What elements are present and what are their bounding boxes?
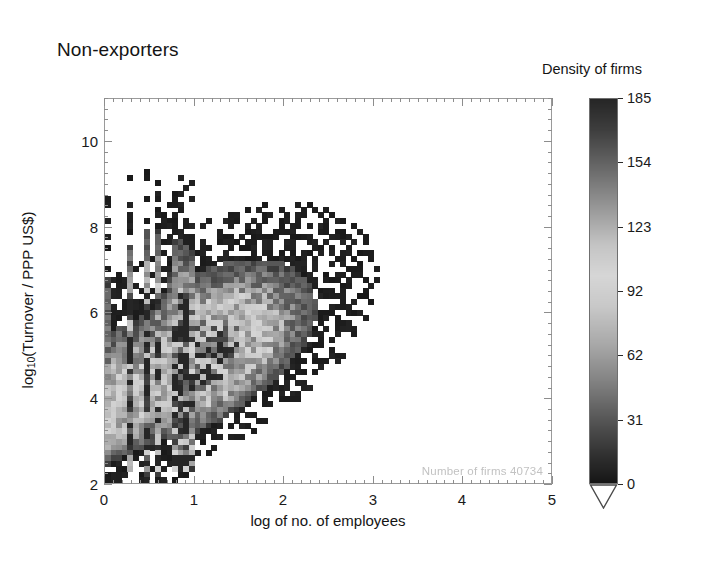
y-tick-right [548,377,552,378]
x-tick-top [158,98,159,102]
y-tick-right [544,227,552,228]
x-tick-top [229,98,230,102]
x-tick-top [301,98,302,102]
colorbar-tick-label: 31 [627,412,643,428]
x-tick [534,480,535,484]
x-tick [489,480,490,484]
x-tick-top [328,98,329,102]
x-tick-top [149,98,150,102]
y-tick [104,441,108,442]
x-tick-top [444,98,445,102]
x-tick [122,480,123,484]
colorbar-tick-label: 185 [627,90,651,106]
x-tick-top [507,98,508,102]
y-tick-right [548,259,552,260]
x-tick [480,480,481,484]
x-tick-top [552,98,553,106]
y-tick [104,463,108,464]
y-tick-right [548,388,552,389]
y-tick [104,184,108,185]
x-tick [274,480,275,484]
x-tick [462,476,463,484]
y-tick-right [548,270,552,271]
y-tick-right [548,323,552,324]
y-tick-right [548,195,552,196]
x-tick [400,480,401,484]
y-tick-right [548,302,552,303]
x-tick [265,480,266,484]
x-tick-label: 5 [548,491,556,508]
y-tick-right [548,248,552,249]
y-tick-right [548,430,552,431]
y-tick [104,366,108,367]
x-tick [301,480,302,484]
y-tick-right [548,473,552,474]
x-tick-top [364,98,365,102]
x-tick [525,480,526,484]
y-axis-label-suffix: (Turnover / PPP US$) [19,212,36,357]
x-tick [382,480,383,484]
y-tick [104,98,108,99]
x-tick-top [140,98,141,102]
y-tick [104,345,108,346]
x-tick-top [534,98,535,102]
y-tick-right [548,366,552,367]
x-axis-label: log of no. of employees [250,512,405,529]
y-tick-right [544,398,552,399]
y-axis-label-prefix: log [19,368,36,388]
x-tick-top [319,98,320,102]
colorbar-tick [618,291,623,292]
y-tick-right [544,312,552,313]
x-tick-top [256,98,257,102]
colorbar-tick [618,420,623,421]
x-tick [158,480,159,484]
x-tick [238,480,239,484]
x-tick-top [310,98,311,102]
x-tick [337,480,338,484]
x-tick [167,480,168,484]
x-tick-label: 0 [100,491,108,508]
x-tick [328,480,329,484]
x-tick [552,476,553,484]
y-tick [104,452,108,453]
x-tick-top [283,98,284,106]
y-tick [104,430,108,431]
y-tick [104,377,108,378]
x-tick-label: 4 [458,491,466,508]
x-tick [149,480,150,484]
y-axis-label: log10(Turnover / PPP US$) [19,140,37,460]
x-tick-top [436,98,437,102]
y-tick [104,205,108,206]
x-tick [507,480,508,484]
x-tick [247,480,248,484]
y-tick-right [548,109,552,110]
x-tick [292,480,293,484]
y-tick-right [548,173,552,174]
x-tick-top [104,98,105,106]
x-tick [346,480,347,484]
y-tick [104,141,112,142]
x-tick-top [346,98,347,102]
y-tick [104,312,112,313]
y-tick-right [548,98,552,99]
density-heatmap [105,99,551,483]
x-tick [140,480,141,484]
figure-root: Non-exporters Number of firms 40734 0123… [0,0,701,561]
x-tick-top [131,98,132,102]
x-tick [185,480,186,484]
x-tick-label: 1 [190,491,198,508]
x-tick [220,480,221,484]
y-tick [104,216,108,217]
x-tick-top [418,98,419,102]
colorbar-tick [618,355,623,356]
x-tick-top [247,98,248,102]
x-tick [444,480,445,484]
x-tick-top [194,98,195,106]
x-tick [471,480,472,484]
y-tick-right [548,119,552,120]
y-tick [104,334,108,335]
x-tick [319,480,320,484]
y-tick-right [548,463,552,464]
y-tick [104,162,108,163]
y-tick [104,355,108,356]
